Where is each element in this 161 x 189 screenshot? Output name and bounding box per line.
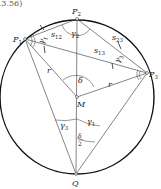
- label-delta-half-den: 2: [78, 140, 82, 147]
- label-gamma1: γ1: [87, 117, 95, 127]
- radius-left: [25, 39, 77, 97]
- label-gamma3: γ3: [60, 121, 69, 131]
- angle-arc-p3: [137, 70, 139, 80]
- caption-fragment: a.3.56): [0, 0, 22, 8]
- inscribed-angle-diagram: a.3.56) P1 P2: [0, 0, 161, 189]
- label-s13: s13: [94, 46, 106, 56]
- label-gamma2: γ2: [71, 29, 79, 39]
- point-p3: [146, 72, 149, 75]
- line-p1-q: [25, 39, 76, 174]
- label-r-right: r: [108, 80, 113, 89]
- label-delta-half-num: δ: [78, 132, 82, 139]
- label-p3: P3: [148, 70, 158, 80]
- point-m: [76, 96, 79, 99]
- label-m: M: [76, 100, 86, 109]
- arrow-tick: [112, 63, 113, 69]
- angle-arc-q-left: [55, 119, 77, 121]
- label-delta: δ: [78, 76, 83, 85]
- label-p2: P2: [71, 7, 81, 17]
- point-p2: [76, 18, 79, 21]
- label-p1: P1: [12, 35, 22, 45]
- arrow-tick: [118, 42, 121, 49]
- point-q: [75, 173, 78, 176]
- label-r-left: r: [47, 66, 52, 75]
- label-s12: s12: [51, 30, 62, 40]
- point-p1: [24, 38, 27, 41]
- arrow-tick: [44, 46, 45, 53]
- label-gamma1-top: γ1: [37, 34, 49, 45]
- label-q: Q: [72, 179, 79, 188]
- radius-right: [77, 73, 147, 97]
